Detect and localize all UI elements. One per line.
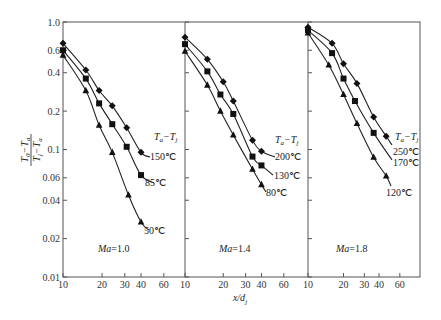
triangle-marker xyxy=(340,91,347,97)
x-tick-label: 20 xyxy=(218,279,228,290)
series-label: 150℃ xyxy=(150,151,176,162)
x-tick-label: 40 xyxy=(256,279,266,290)
diamond-marker xyxy=(383,133,390,140)
series-line xyxy=(63,55,149,230)
series-label: 200℃ xyxy=(275,151,301,162)
series-200c xyxy=(182,34,276,157)
series-label: 50℃ xyxy=(144,225,165,236)
diamond-marker xyxy=(220,78,227,85)
series-label: 250℃ xyxy=(393,146,419,157)
square-marker xyxy=(352,98,358,104)
x-tick-label: 30 xyxy=(359,279,369,290)
chart-figure: 1.00.60.40.20.10.060.040.020.01 10203040… xyxy=(0,0,441,320)
y-tick-label: 0.06 xyxy=(43,172,61,183)
x-tick-label: 40 xyxy=(136,279,146,290)
x-tick-label: 60 xyxy=(159,279,169,290)
series-50c xyxy=(60,51,149,230)
y-tick-label: 0.2 xyxy=(48,106,61,117)
y-tick-label: 0.04 xyxy=(43,195,61,206)
y-axis-label: T0−TaTj−Ta xyxy=(19,134,44,166)
square-marker xyxy=(249,154,255,160)
series-label: 80℃ xyxy=(266,187,287,198)
x-tick-label: 40 xyxy=(374,279,384,290)
y-tick-label: 0.6 xyxy=(48,45,61,56)
diamond-marker xyxy=(249,137,256,144)
series-line xyxy=(308,30,392,160)
triangle-marker xyxy=(83,87,90,93)
square-marker xyxy=(258,162,264,168)
series-line xyxy=(63,50,154,183)
square-marker xyxy=(371,130,377,136)
x-tick-label: 60 xyxy=(395,279,405,290)
series-label: 130℃ xyxy=(274,170,300,181)
square-marker xyxy=(204,68,210,74)
series-label: 120℃ xyxy=(386,187,412,198)
y-tick-label: 0.1 xyxy=(48,144,61,155)
x-tick-label: 10 xyxy=(58,279,68,290)
y-tick-label: 0.4 xyxy=(48,67,61,78)
legend-title: Ta−Tj xyxy=(395,131,418,144)
series-line xyxy=(308,33,391,186)
legend-title: Ta−Tj xyxy=(154,131,177,144)
triangle-marker xyxy=(249,165,256,171)
y-tick-label: 1.0 xyxy=(48,17,61,28)
x-tick-label: 30 xyxy=(241,279,251,290)
y-tick-label: 0.02 xyxy=(43,233,61,244)
square-marker xyxy=(182,41,188,47)
x-tick-label: 20 xyxy=(339,279,349,290)
x-tick-label: 10 xyxy=(180,279,190,290)
x-axis: 102030406010203040601020304060 xyxy=(58,273,405,290)
square-marker xyxy=(83,76,89,82)
legend-title: Ta−Tj xyxy=(275,134,298,147)
series-line xyxy=(308,27,392,145)
panel-label-mach: Ma=1.0 xyxy=(97,243,129,254)
data-series xyxy=(60,24,393,230)
triangle-marker xyxy=(370,153,377,159)
series-150c xyxy=(60,40,151,157)
square-marker xyxy=(138,172,144,178)
triangle-marker xyxy=(354,120,361,126)
series-line xyxy=(185,37,275,157)
square-marker xyxy=(124,144,130,150)
square-marker xyxy=(341,76,347,82)
panel-label-mach: Ma=1.8 xyxy=(335,243,367,254)
square-marker xyxy=(230,111,236,117)
diamond-marker xyxy=(353,80,360,87)
series-250c xyxy=(305,24,393,145)
triangle-marker xyxy=(217,107,224,113)
series-label: 85℃ xyxy=(145,177,166,188)
series-130c xyxy=(182,41,273,175)
x-axis-label: x/dj xyxy=(232,292,247,306)
diamond-marker xyxy=(123,124,130,131)
series-85c xyxy=(60,47,154,183)
series-80c xyxy=(182,47,266,192)
x-tick-label: 60 xyxy=(279,279,289,290)
series-120c xyxy=(305,29,391,186)
x-tick-label: 20 xyxy=(97,279,107,290)
diamond-marker xyxy=(340,60,347,67)
triangle-marker xyxy=(230,131,237,137)
x-tick-label: 30 xyxy=(120,279,130,290)
square-marker xyxy=(217,92,223,98)
triangle-marker xyxy=(96,121,103,127)
square-marker xyxy=(329,50,335,56)
square-marker xyxy=(109,121,115,127)
series-label: 170℃ xyxy=(393,157,419,168)
triangle-marker xyxy=(138,218,145,224)
panel-label-mach: Ma=1.4 xyxy=(218,243,250,254)
triangle-marker xyxy=(125,191,132,197)
series-line xyxy=(185,44,273,175)
diamond-marker xyxy=(370,113,377,120)
square-marker xyxy=(96,100,102,106)
x-tick-label: 10 xyxy=(303,279,313,290)
diamond-marker xyxy=(230,98,237,105)
y-axis: 1.00.60.40.20.10.060.040.020.01 xyxy=(43,17,313,283)
triangle-marker xyxy=(109,149,116,155)
svg-text:Tj−Ta: Tj−Ta xyxy=(31,138,44,162)
